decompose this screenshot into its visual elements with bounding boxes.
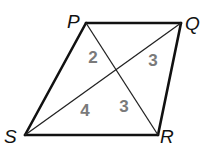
side-sp [25,23,86,135]
vertex-label-q: Q [185,13,200,34]
diagonal-sq [25,23,181,135]
quadrilateral-diagram: P Q S R 2 3 4 3 [0,0,211,146]
segment-label-s: 4 [80,101,90,120]
vertex-label-r: R [160,126,174,146]
diagonal-pr [86,23,158,135]
segment-label-r: 3 [119,97,128,116]
side-qr [158,23,181,135]
segment-label-q: 3 [148,51,157,70]
segment-label-p: 2 [88,48,97,67]
vertex-label-s: S [4,126,17,146]
vertex-label-p: P [67,11,80,32]
